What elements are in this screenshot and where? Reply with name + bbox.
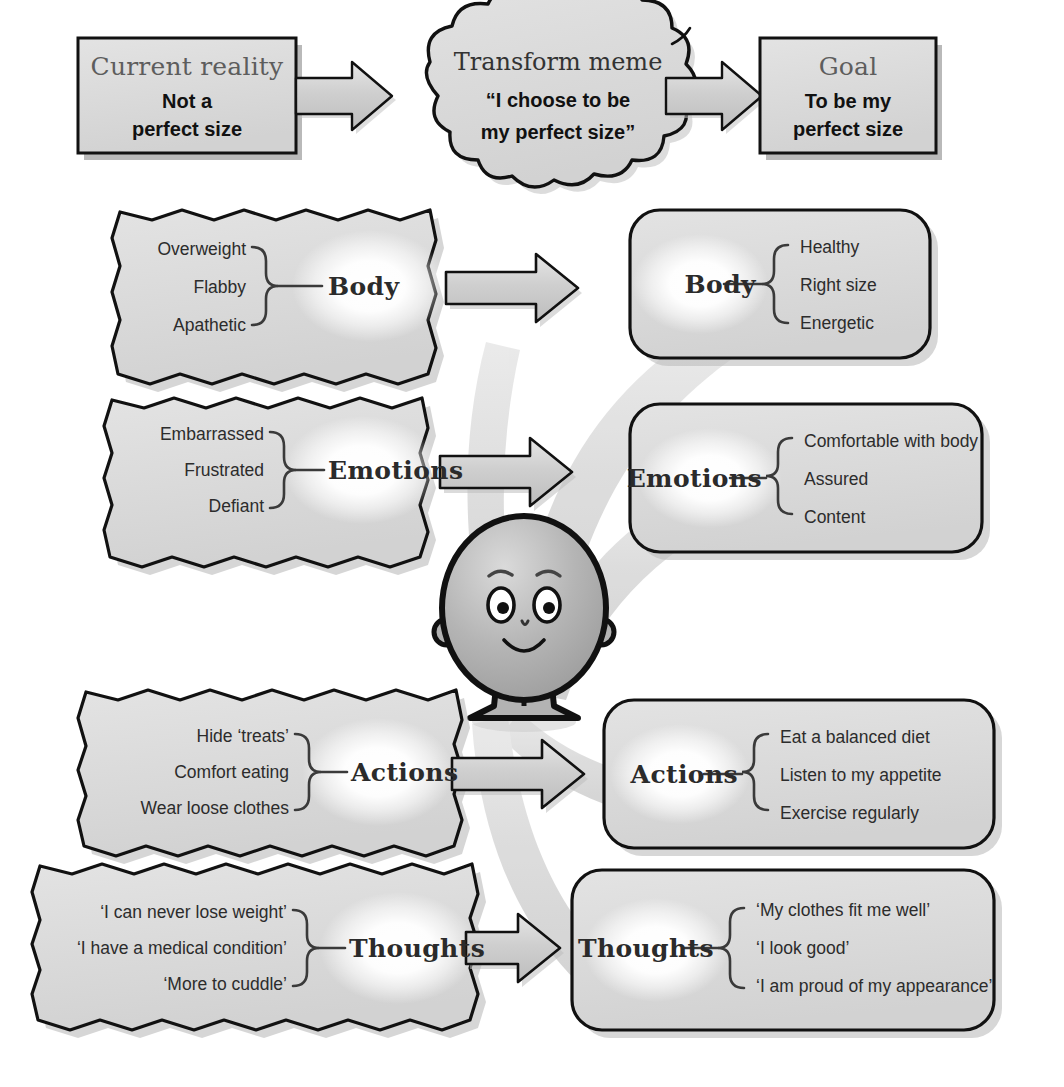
thoughts-right-item-2: ‘I look good’ <box>756 938 849 959</box>
emotions-right-item-1: Comfortable with body <box>804 431 978 452</box>
body-right-item-2: Right size <box>800 275 877 296</box>
current-reality-line-1: Not a <box>78 88 296 114</box>
thoughts-left-label: Thoughts <box>349 934 485 963</box>
emotions-right-label: Emotions <box>627 464 762 493</box>
transform-meme-line-1: “I choose to be <box>418 84 698 116</box>
body-left-item-1: Overweight <box>96 239 246 260</box>
body-left-label: Body <box>328 272 399 301</box>
emotions-left-label: Emotions <box>328 456 463 485</box>
body-right-item-3: Energetic <box>800 313 874 334</box>
goal-line-2: perfect size <box>760 116 936 142</box>
actions-left-item-3: Wear loose clothes <box>109 798 289 819</box>
actions-right-item-3: Exercise regularly <box>780 803 919 824</box>
actions-left-label: Actions <box>351 758 458 787</box>
transform-meme-line-2: my perfect size” <box>418 116 698 148</box>
actions-right-label: Actions <box>631 760 738 789</box>
actions-right-item-1: Eat a balanced diet <box>780 727 930 748</box>
transform-meme-heading: Transform meme <box>418 48 698 76</box>
torn-box-body-left <box>112 210 448 392</box>
actions-right-item-2: Listen to my appetite <box>780 765 941 786</box>
body-left-item-2: Flabby <box>96 277 246 298</box>
goal-heading: Goal <box>760 52 936 81</box>
thoughts-left-item-1: ‘I can never lose weight’ <box>57 902 287 923</box>
current-reality-heading: Current reality <box>78 52 296 81</box>
diagram-artwork <box>0 0 1064 1087</box>
thoughts-left-item-3: ‘More to cuddle’ <box>57 974 287 995</box>
emotions-left-item-1: Embarrassed <box>104 424 264 445</box>
emotions-left-item-3: Defiant <box>104 496 264 517</box>
body-right-item-1: Healthy <box>800 237 859 258</box>
round-box-body-right <box>630 210 938 366</box>
thoughts-left-item-2: ‘I have a medical condition’ <box>57 938 287 959</box>
actions-left-item-1: Hide ‘treats’ <box>109 726 289 747</box>
body-right-label: Body <box>685 270 756 299</box>
thoughts-right-label: Thoughts <box>578 934 714 963</box>
emotions-right-item-3: Content <box>804 507 865 528</box>
arrow-current-to-meme <box>296 62 396 134</box>
arrow-body <box>446 254 582 327</box>
body-left-item-3: Apathetic <box>96 315 246 336</box>
current-reality-line-2: perfect size <box>78 116 296 142</box>
actions-left-item-2: Comfort eating <box>109 762 289 783</box>
thoughts-right-item-1: ‘My clothes fit me well’ <box>756 900 930 921</box>
emotions-left-item-2: Frustrated <box>104 460 264 481</box>
emotions-right-item-2: Assured <box>804 469 868 490</box>
thoughts-right-item-3: ‘I am proud of my appearance’ <box>756 976 992 997</box>
goal-line-1: To be my <box>760 88 936 114</box>
diagram-canvas: Current reality Not a perfect size Trans… <box>0 0 1064 1087</box>
